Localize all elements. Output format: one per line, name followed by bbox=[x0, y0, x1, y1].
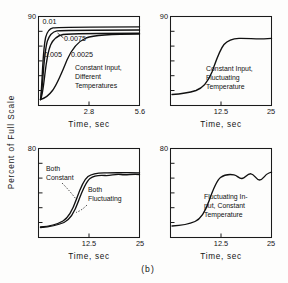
annotation-top-right-line3: Temperature bbox=[206, 83, 245, 91]
annotation-both-fluctuating-line2: Fluctuating bbox=[88, 195, 122, 203]
x-tick-label-bottom-left-2: 25 bbox=[136, 239, 144, 248]
x-axis-title-top-left: Time, sec bbox=[68, 120, 109, 129]
curve-label-0-005: 0.005 bbox=[44, 50, 62, 59]
annotation-top-right-line2: Fluctuating bbox=[206, 74, 240, 82]
y-max-label-bottom-right: 80 bbox=[160, 144, 168, 153]
figure-caption: (b) bbox=[141, 264, 155, 274]
y-axis-label: Percent of Full Scale bbox=[7, 95, 16, 189]
y-max-label-top-left: 90 bbox=[28, 12, 36, 21]
x-tick-label-top-left-2: 5.6 bbox=[135, 107, 145, 116]
x-axis-title-bottom-left: Time, sec bbox=[68, 252, 109, 261]
annotation-bottom-right: Fluctuating In- put, Constant Temperatur… bbox=[204, 193, 248, 219]
x-tick-label-bottom-right-2: 25 bbox=[267, 239, 275, 248]
x-tick-label-top-right-1: 12.5 bbox=[214, 107, 228, 116]
y-max-label-top-right: 90 bbox=[160, 12, 168, 21]
annotation-both-constant-line2: Constant bbox=[46, 174, 74, 181]
y-axis-label-text: Percent of Full Scale bbox=[7, 95, 16, 189]
annotation-top-left-line1: Constant Input, bbox=[75, 64, 122, 72]
annotation-bottom-right-line3: Temperature bbox=[204, 211, 243, 219]
annotation-top-left-line2: Different bbox=[75, 73, 101, 80]
x-axis-title-top-right: Time, sec bbox=[200, 120, 241, 129]
annotation-top-left-line3: Temperatures bbox=[75, 82, 118, 90]
x-tick-label-top-right-2: 25 bbox=[267, 107, 275, 116]
curve-label-0-01: 0.01 bbox=[43, 17, 57, 26]
curve-label-0-0025: 0.0025 bbox=[71, 50, 93, 59]
y-max-label-bottom-left: 80 bbox=[28, 144, 36, 153]
curve-label-0-0075: 0.0075 bbox=[64, 34, 86, 43]
x-tick-label-bottom-left-1: 12.5 bbox=[82, 239, 96, 248]
annotation-both-constant-line1: Both bbox=[46, 165, 60, 172]
x-tick-label-top-left-1: 2.8 bbox=[84, 107, 94, 116]
figure-panel-b: Percent of Full Scale 90 2.8 5.6 Time, s… bbox=[0, 0, 288, 283]
x-axis-title-bottom-right: Time, sec bbox=[200, 252, 241, 261]
annotation-bottom-right-line2: put, Constant bbox=[204, 202, 245, 210]
annotation-top-right-line1: Constant Input, bbox=[206, 65, 253, 73]
annotation-both-fluctuating-line1: Both bbox=[88, 186, 102, 193]
x-tick-label-bottom-right-1: 12.5 bbox=[214, 239, 228, 248]
annotation-bottom-right-line1: Fluctuating In- bbox=[204, 193, 248, 201]
